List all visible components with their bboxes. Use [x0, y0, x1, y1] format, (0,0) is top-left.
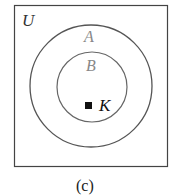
set-a-label: A [84, 29, 94, 45]
element-k-marker [85, 102, 92, 109]
element-k-label: K [99, 97, 110, 114]
set-b-label: B [86, 58, 96, 74]
universe-label: U [22, 12, 34, 29]
figure-caption: (c) [76, 178, 94, 194]
